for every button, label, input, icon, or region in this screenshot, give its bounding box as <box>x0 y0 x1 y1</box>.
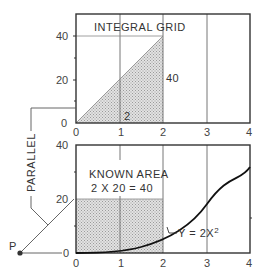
integral-diagram: INTEGRAL GRID 2 40 40 20 0 0 1 2 3 4 <box>0 0 266 276</box>
base-label: 2 <box>124 110 131 122</box>
known-area-formula: 2 X 20 = 40 <box>91 182 153 194</box>
pole-point <box>17 250 22 255</box>
top-x-tick-2: 2 <box>160 126 166 138</box>
bottom-x-tick-4: 4 <box>246 257 252 269</box>
bottom-x-tick-1: 1 <box>118 257 124 269</box>
curve-equation-label: Y = 2X2 <box>178 226 219 239</box>
top-x-tick-0: 0 <box>73 126 79 138</box>
bottom-x-tick-3: 3 <box>204 257 210 269</box>
top-y-tick-20: 20 <box>56 74 68 86</box>
known-area-chart: Y = 2X2 KNOWN AREA 2 X 20 = 40 40 20 0 0… <box>56 139 252 269</box>
top-x-tick-3: 3 <box>204 126 210 138</box>
pole-label: P <box>9 240 17 252</box>
height-label: 40 <box>166 72 179 84</box>
bottom-y-tick-20: 20 <box>56 193 68 205</box>
bottom-y-tick-0: 0 <box>63 247 69 259</box>
top-x-tick-1: 1 <box>118 126 124 138</box>
integral-grid-title: INTEGRAL GRID <box>94 21 186 33</box>
parallel-construction: PARALLEL P <box>9 108 76 256</box>
top-y-tick-0: 0 <box>61 117 67 129</box>
bottom-x-tick-0: 0 <box>73 257 79 269</box>
parallel-label: PARALLEL <box>25 133 37 192</box>
bottom-y-tick-40: 40 <box>56 139 68 151</box>
top-x-tick-4: 4 <box>246 126 252 138</box>
known-area-title: KNOWN AREA <box>89 168 169 180</box>
bottom-x-tick-2: 2 <box>160 257 166 269</box>
top-y-tick-40: 40 <box>56 30 68 42</box>
integral-grid-chart: INTEGRAL GRID 2 40 40 20 0 0 1 2 3 4 <box>56 14 252 138</box>
